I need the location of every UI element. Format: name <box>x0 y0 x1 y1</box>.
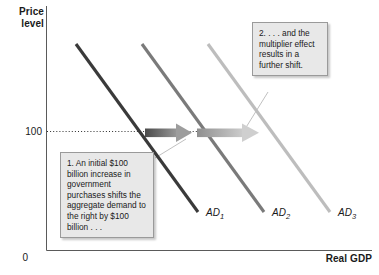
multiplier-shift-arrow <box>197 124 259 142</box>
curve-label-ad2: AD2 <box>272 207 290 221</box>
curve-label-ad1-subscript: 1 <box>220 212 224 221</box>
curve-label-ad2-subscript: 2 <box>286 212 290 221</box>
callout-initial-increase: 1. An initial $100 billion increase in g… <box>60 152 154 238</box>
curve-label-ad1: AD1 <box>206 207 224 221</box>
curve-label-ad3: AD3 <box>338 207 356 221</box>
callout-multiplier-effect: 2. . . . and the multiplier effect resul… <box>252 22 328 76</box>
curve-label-ad3-text: AD <box>338 207 352 218</box>
curve-label-ad1-text: AD <box>206 207 220 218</box>
y-axis-title: Price level <box>8 6 44 29</box>
callout-initial-leader-line <box>155 139 186 158</box>
y-axis-tick-100: 100 <box>14 126 42 137</box>
curve-label-ad3-subscript: 3 <box>352 212 356 221</box>
aggregate-demand-shift-figure: Price level Real GDP 100 0 AD1 AD2 AD3 2… <box>0 0 379 275</box>
x-axis-title: Real GDP <box>302 253 372 265</box>
axis-origin-label: 0 <box>14 252 28 263</box>
curve-label-ad2-text: AD <box>272 207 286 218</box>
